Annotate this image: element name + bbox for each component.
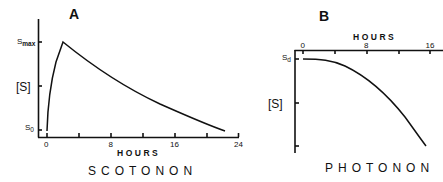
panel-a-xtick-label-8: 8: [109, 140, 114, 149]
panel-b-sd-label: Sd: [282, 53, 291, 63]
panel-b-xtick-label-0: 0: [301, 41, 306, 50]
panel-a-xtick-label-0: 0: [44, 140, 49, 149]
panel-b-curve: [303, 59, 426, 146]
panel-a-caption: SCOTONON: [88, 164, 197, 178]
panel-a-xlabel: HOURS: [117, 148, 160, 158]
panel-b-caption: PHOTONON: [325, 161, 434, 175]
panel-a-curve: [47, 42, 225, 131]
panel-b: B HOURS 0 8 16 Sd [S] PHOTONON: [268, 8, 443, 175]
panel-a: A 0 8 16 24 Smax [S] S0 HOURS SCOTONON: [16, 6, 243, 178]
panel-a-xtick-label-24: 24: [234, 140, 243, 149]
panel-a-xtick-label-16: 16: [170, 140, 179, 149]
panel-b-letter: B: [319, 8, 329, 24]
panel-a-ylabel: [S]: [16, 80, 31, 94]
panel-b-xtick-label-16: 16: [426, 41, 435, 50]
panel-b-xtick-label-8: 8: [364, 41, 369, 50]
figure: A 0 8 16 24 Smax [S] S0 HOURS SCOTONON B: [0, 0, 443, 182]
panel-a-s0-label: S0: [25, 123, 34, 133]
panel-a-letter: A: [69, 6, 79, 22]
panel-b-xlabel: HOURS: [353, 32, 396, 42]
panel-b-ylabel: [S]: [268, 97, 283, 111]
panel-a-smax-label: Smax: [17, 37, 36, 47]
